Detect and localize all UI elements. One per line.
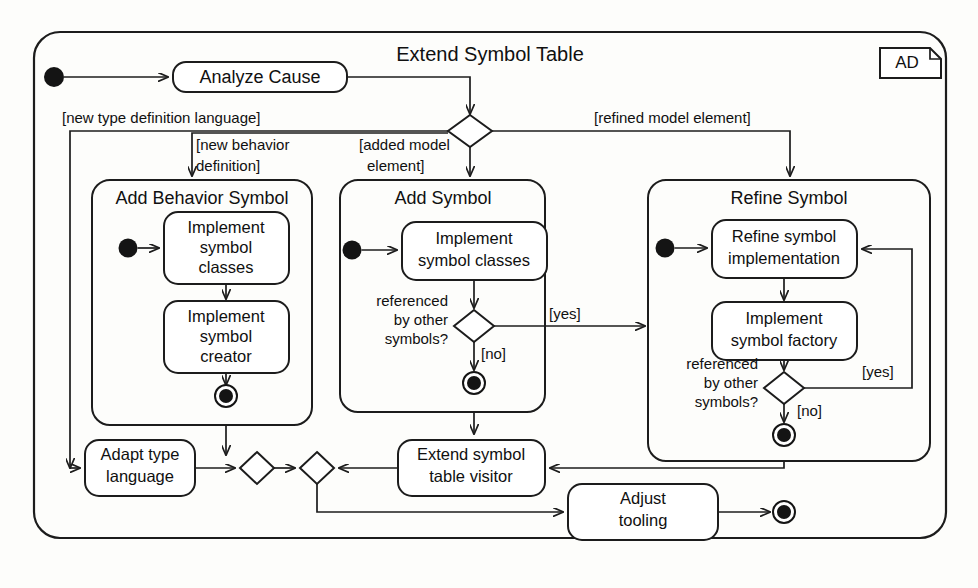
decision-node-refine-symbol xyxy=(764,372,804,404)
ad-tag-label: AD xyxy=(895,53,919,72)
decision-as-question-line2: by other xyxy=(394,311,448,328)
guard-new-type-definition-language: [new type definition language] xyxy=(62,109,260,126)
action-rs-2-line2: symbol factory xyxy=(731,331,838,349)
initial-node-main xyxy=(44,67,64,87)
guard-new-behavior-definition-line1: [new behavior xyxy=(196,136,289,153)
decision-as-question-line3: symbols? xyxy=(385,330,448,347)
action-analyze-cause-label: Analyze Cause xyxy=(199,67,320,87)
action-abs-1-line2: symbol xyxy=(200,238,252,256)
action-rs-2-line1: Implement xyxy=(745,309,822,327)
decision-rs-question-line1: referenced xyxy=(686,355,758,372)
ad-tag: AD xyxy=(880,48,941,78)
guard-rs-yes: [yes] xyxy=(862,363,894,380)
guard-refined-model-element: [refined model element] xyxy=(594,109,751,126)
lane-add-behavior-symbol-title: Add Behavior Symbol xyxy=(115,188,288,208)
action-rs-1-line2: implementation xyxy=(728,249,840,267)
initial-node-add-symbol xyxy=(343,241,362,260)
action-as-1-line2: symbol classes xyxy=(418,251,530,269)
guard-added-model-element-line2: element] xyxy=(367,157,425,174)
action-abs-1-line1: Implement xyxy=(187,218,264,236)
initial-node-refine-symbol xyxy=(656,239,675,258)
action-as-1-line1: Implement xyxy=(435,229,512,247)
final-node-add-symbol xyxy=(463,372,485,394)
flow-analyze-to-decision xyxy=(347,77,470,114)
lane-refine-symbol-title: Refine Symbol xyxy=(730,188,847,208)
decision-rs-question-line3: symbols? xyxy=(695,393,758,410)
action-abs-2-line2: symbol xyxy=(200,327,252,345)
action-abs-2-line1: Implement xyxy=(187,307,264,325)
flow-decision-to-refine-symbol xyxy=(492,131,790,176)
action-adjust-tooling-line1: Adjust xyxy=(620,489,666,507)
guard-new-behavior-definition-line2: definition] xyxy=(196,157,260,174)
decision-node-add-symbol xyxy=(454,310,494,342)
merge-node-right xyxy=(300,452,334,484)
flow-rs-lane-out-to-extend-visitor xyxy=(550,461,784,468)
action-rs-1-line1: Refine symbol xyxy=(732,227,837,245)
merge-node-left xyxy=(240,452,274,484)
guard-as-no: [no] xyxy=(481,345,506,362)
final-node-refine-symbol xyxy=(773,424,795,446)
decision-rs-question-line2: by other xyxy=(704,374,758,391)
guard-added-model-element-line1: [added model xyxy=(359,136,450,153)
action-extend-visitor-line1: Extend symbol xyxy=(417,445,525,463)
activity-diagram-canvas: Extend Symbol Table AD Analyze Cause [ne… xyxy=(0,0,978,588)
action-adapt-type-language-line2: language xyxy=(106,467,174,485)
action-abs-2-line3: creator xyxy=(200,347,252,365)
action-extend-visitor-line2: table visitor xyxy=(429,467,513,485)
action-adjust-tooling-line2: tooling xyxy=(619,511,668,529)
action-adapt-type-language-line1: Adapt type xyxy=(101,445,180,463)
action-abs-1-line3: classes xyxy=(198,258,253,276)
decision-as-question-line1: referenced xyxy=(376,292,448,309)
page-title: Extend Symbol Table xyxy=(396,43,584,65)
guard-as-yes: [yes] xyxy=(549,305,581,322)
guard-rs-no: [no] xyxy=(797,402,822,419)
activity-final-node xyxy=(773,501,795,523)
lane-add-symbol-title: Add Symbol xyxy=(394,188,491,208)
decision-node-top xyxy=(448,115,492,147)
final-node-add-behavior-symbol xyxy=(215,385,237,407)
initial-node-add-behavior-symbol xyxy=(119,239,138,258)
